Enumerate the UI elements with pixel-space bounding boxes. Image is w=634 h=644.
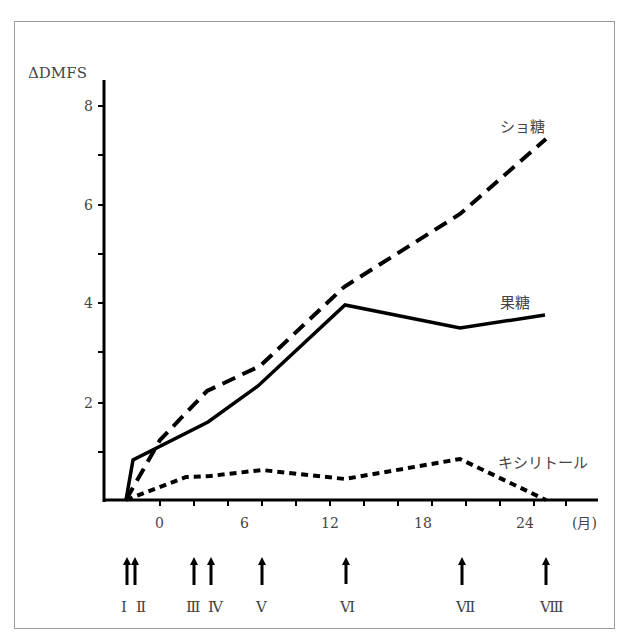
x-unit-label: (月): [572, 515, 597, 531]
y-tick-label: 2: [84, 395, 93, 411]
y-axis-label: ΔDMFS: [28, 64, 87, 82]
y-tick-label: 4: [84, 295, 93, 311]
y-tick-label: 6: [84, 197, 93, 213]
timepoint-label: Ⅶ: [455, 598, 475, 616]
series-label-xylitol: キシリトール: [498, 454, 588, 472]
x-tick-label: 18: [414, 515, 432, 531]
timepoint-label: Ⅰ: [121, 598, 127, 616]
series-sucrose-line: [126, 139, 546, 500]
series-xylitol-line: [126, 459, 546, 500]
timepoint-label: Ⅱ: [136, 598, 146, 616]
chart-svg: ΔDMFS 8 6 4 2 0 6 12 18 24 (月) ショ糖 果糖 キシ…: [0, 0, 634, 644]
series-label-fructose: 果糖: [500, 294, 530, 312]
y-tick-label: 8: [84, 98, 93, 114]
timepoint-label: Ⅵ: [339, 598, 355, 616]
x-tick-label: 24: [516, 515, 534, 531]
timepoint-label: Ⅴ: [255, 598, 268, 616]
timepoint-label: Ⅳ: [208, 598, 224, 616]
timepoint-label: Ⅲ: [186, 598, 200, 616]
x-tick-label: 6: [240, 515, 249, 531]
series-label-sucrose: ショ糖: [500, 118, 545, 136]
arrow-heads: [123, 557, 550, 565]
x-tick-label: 12: [321, 515, 339, 531]
timepoint-label: Ⅷ: [539, 598, 564, 616]
x-tick-label: 0: [155, 515, 164, 531]
timepoint-arrows: [127, 563, 546, 585]
